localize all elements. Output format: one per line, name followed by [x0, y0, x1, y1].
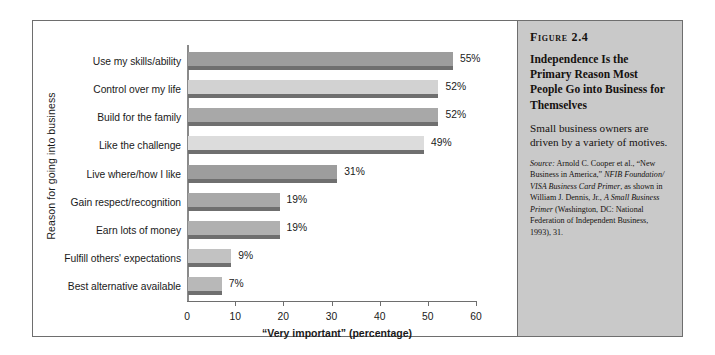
bar-body — [188, 193, 280, 207]
bar-shadow — [188, 235, 280, 239]
y-axis-title-text: Reason for going into business — [45, 92, 57, 239]
bar-shadow — [188, 291, 222, 295]
x-axis-tick — [235, 301, 236, 306]
x-axis-tick-label: 20 — [278, 311, 289, 322]
x-axis-tick-label: 50 — [422, 311, 433, 322]
bar — [188, 108, 438, 126]
chart-panel: Reason for going into business Use my sk… — [33, 21, 519, 336]
bar-body — [188, 108, 438, 122]
x-axis-tick-label: 0 — [184, 311, 190, 322]
bar-shadow — [188, 122, 438, 126]
bar — [188, 193, 280, 211]
bar — [188, 136, 424, 154]
bar — [188, 221, 280, 239]
category-label: Fulfill others' expectations — [59, 252, 181, 263]
bar-body — [188, 277, 222, 291]
y-axis-title: Reason for going into business — [41, 21, 61, 311]
bar-shadow — [188, 66, 453, 70]
source-italic: Source: — [530, 159, 555, 168]
bar — [188, 52, 453, 70]
bar-value-label: 49% — [431, 137, 452, 148]
category-label: Control over my life — [59, 84, 181, 95]
bar-value-label: 31% — [344, 166, 365, 177]
x-axis-tick — [283, 301, 284, 306]
bar-shadow — [188, 94, 438, 98]
caption-description: Small business owners are driven by a va… — [530, 121, 670, 150]
x-axis-tick-label: 60 — [470, 311, 481, 322]
category-label: Use my skills/ability — [59, 56, 181, 67]
bar-body — [188, 165, 337, 179]
category-label: Best alternative available — [59, 280, 181, 291]
x-axis-tick — [476, 301, 477, 306]
bar-body — [188, 136, 424, 150]
bar-value-label: 9% — [238, 250, 253, 261]
caption-title: Independence Is the Primary Reason Most … — [530, 52, 670, 113]
category-label-list: Use my skills/abilityControl over my lif… — [59, 47, 181, 300]
bar-body — [188, 249, 231, 263]
x-axis-tick — [332, 301, 333, 306]
category-label: Earn lots of money — [59, 224, 181, 235]
bar-body — [188, 52, 453, 66]
plot-area: 55%52%52%49%31%19%19%9%7%0102030405060 — [187, 47, 497, 300]
bar-value-label: 7% — [229, 278, 244, 289]
x-axis-tick — [428, 301, 429, 306]
bar-value-label: 52% — [445, 109, 466, 120]
bar-value-label: 19% — [287, 222, 308, 233]
x-axis-tick-label: 30 — [326, 311, 337, 322]
bar-value-label: 52% — [445, 81, 466, 92]
bar — [188, 249, 231, 267]
x-axis-tick — [380, 301, 381, 306]
x-axis-tick-label: 10 — [229, 311, 240, 322]
bar — [188, 277, 222, 295]
category-label: Like the challenge — [59, 140, 181, 151]
bar-shadow — [188, 179, 337, 183]
x-axis-title: “Very important” (percentage) — [187, 327, 487, 339]
category-label: Live where/how I like — [59, 168, 181, 179]
caption-panel: Figure 2.4 Independence Is the Primary R… — [517, 21, 682, 336]
bar-shadow — [188, 207, 280, 211]
x-axis-tick-label: 40 — [374, 311, 385, 322]
category-label: Gain respect/recognition — [59, 196, 181, 207]
figure-number: Figure 2.4 — [530, 30, 670, 45]
bar-body — [188, 80, 438, 94]
caption-source: Source: Arnold C. Cooper et al., “New Bu… — [530, 158, 670, 238]
bar — [188, 165, 337, 183]
bar-value-label: 55% — [460, 53, 481, 64]
bar-shadow — [188, 263, 231, 267]
category-label: Build for the family — [59, 112, 181, 123]
bar-value-label: 19% — [287, 194, 308, 205]
bar — [188, 80, 438, 98]
figure-frame: Reason for going into business Use my sk… — [32, 20, 683, 337]
bar-shadow — [188, 150, 424, 154]
bar-body — [188, 221, 280, 235]
